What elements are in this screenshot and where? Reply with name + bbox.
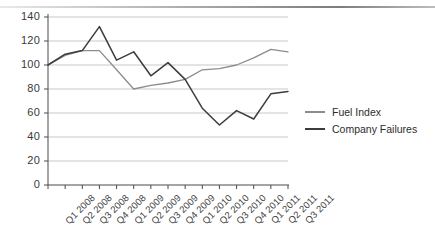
y-axis-tick-label: 60	[10, 106, 40, 118]
legend-swatch-icon	[305, 128, 325, 131]
y-axis-tick-label: 20	[10, 154, 40, 166]
legend-label: Fuel Index	[332, 106, 381, 118]
legend-item-company-failures[interactable]: Company Failures	[305, 123, 417, 135]
y-axis-tick-label: 120	[10, 34, 40, 46]
y-axis-tick-label: 80	[10, 82, 40, 94]
series-line-fuel-index	[48, 49, 288, 89]
line-chart: 020406080100120140Q1 2008Q2 2008Q3 2008Q…	[0, 0, 435, 244]
y-axis-ticks	[44, 17, 48, 185]
legend-swatch-icon	[305, 111, 325, 113]
y-axis-tick-label: 0	[10, 178, 40, 190]
y-axis-tick-label: 40	[10, 130, 40, 142]
y-axis-tick-label: 140	[10, 10, 40, 22]
legend-item-fuel-index[interactable]: Fuel Index	[305, 106, 381, 118]
legend-label: Company Failures	[332, 123, 417, 135]
gridlines	[48, 17, 288, 185]
y-axis-tick-label: 100	[10, 58, 40, 70]
x-axis-ticks	[48, 185, 288, 189]
